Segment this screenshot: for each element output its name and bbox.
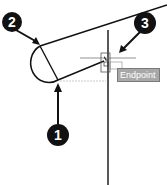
arrowhead-icon <box>32 37 40 45</box>
callout-3-arrow <box>123 32 140 49</box>
arc-end <box>31 46 58 83</box>
endpoint-tooltip: Endpoint <box>117 68 160 82</box>
callout-2-label: 2 <box>8 14 16 30</box>
cad-drawing: 2 3 1 <box>0 0 167 185</box>
callout-2-arrow <box>16 30 37 42</box>
chord-line <box>40 46 58 80</box>
callout-3-label: 3 <box>141 15 149 31</box>
cursor-icon <box>104 56 107 61</box>
arrowhead-icon <box>54 83 62 92</box>
callout-1-label: 1 <box>54 127 62 143</box>
bottom-edge-line <box>58 61 104 80</box>
